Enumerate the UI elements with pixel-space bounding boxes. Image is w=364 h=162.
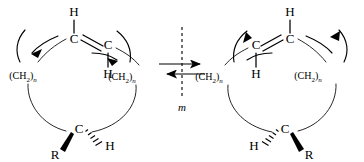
right-alkene-lower-hydrogen-label: H xyxy=(251,66,260,81)
right-chain-left-n: n xyxy=(219,76,223,84)
left-stereocenter-h-label: H xyxy=(105,138,114,153)
svg-text:(CH2)n: (CH2)n xyxy=(9,70,37,83)
right-ring-curve-left xyxy=(228,85,272,132)
right-stereocenter-carbon-label: C xyxy=(281,121,290,136)
left-chain-left-open: (CH xyxy=(9,70,26,82)
left-ring-curve-left xyxy=(28,84,66,131)
right-alkene-upper-carbon-label: C xyxy=(286,31,295,46)
right-chain-right-n: n xyxy=(318,75,322,83)
right-chain-left-open: (CH xyxy=(195,71,212,83)
right-stereocenter-r-label: R xyxy=(305,147,314,162)
svg-text:(CH2)n: (CH2)n xyxy=(195,71,223,84)
mirror-plane-label: m xyxy=(178,101,186,113)
right-stereocenter-h-label: H xyxy=(249,138,258,153)
svg-text:(CH2)n: (CH2)n xyxy=(294,70,322,83)
left-double-bond-line-b xyxy=(83,35,103,46)
right-double-bond-line-b xyxy=(261,35,281,46)
left-rotation-arrow-left xyxy=(17,30,58,62)
left-double-bond-line-a xyxy=(81,40,101,51)
left-chain-left-label: (CH2)n xyxy=(9,70,37,83)
right-ring-curve-right xyxy=(298,84,336,131)
right-structure-group: H C C H (CH2)n (CH2)n C R xyxy=(195,4,347,162)
left-bond-clower-to-chainright xyxy=(116,48,139,65)
left-ring-curve-right xyxy=(92,85,136,132)
right-bond-clower-to-chainleft xyxy=(225,48,248,65)
left-chain-left-n: n xyxy=(33,75,37,83)
left-chain-right-open: (CH xyxy=(108,71,125,83)
right-bond-cupper-to-chainright xyxy=(298,39,326,62)
left-stereocenter-r-label: R xyxy=(51,147,60,162)
right-chain-right-open: (CH xyxy=(294,70,311,82)
left-alkene-bonds xyxy=(38,20,139,67)
left-alkene-lower-carbon-label: C xyxy=(104,37,113,52)
right-alkene-upper-hydrogen-label: H xyxy=(285,4,294,19)
left-alkene-upper-hydrogen-label: H xyxy=(69,4,78,19)
center-mirror-equilibrium-group: m xyxy=(159,27,205,113)
right-chain-right-label: (CH2)n xyxy=(294,70,322,83)
right-double-bond-line-a xyxy=(263,40,283,51)
left-bond-cupper-to-chainleft xyxy=(38,39,66,62)
left-alkene-upper-carbon-label: C xyxy=(70,31,79,46)
right-alkene-bonds xyxy=(225,20,326,67)
svg-text:(CH2)n: (CH2)n xyxy=(108,71,136,84)
left-structure-group: H C C H (CH2)n (CH2)n C R xyxy=(9,4,139,162)
chemical-structure-figure: H C C H (CH2)n (CH2)n C R xyxy=(0,0,364,162)
right-stereocenter-bold-wedge xyxy=(290,132,304,152)
left-chain-right-label: (CH2)n xyxy=(108,71,136,84)
left-stereocenter-carbon-label: C xyxy=(75,121,84,136)
left-chain-right-n: n xyxy=(132,76,136,84)
left-stereocenter-bold-wedge xyxy=(60,132,74,152)
right-rotation-arrow-right xyxy=(306,30,347,62)
figure-canvas: H C C H (CH2)n (CH2)n C R xyxy=(0,0,364,162)
right-chain-left-label: (CH2)n xyxy=(195,71,223,84)
right-alkene-lower-carbon-label: C xyxy=(252,37,261,52)
